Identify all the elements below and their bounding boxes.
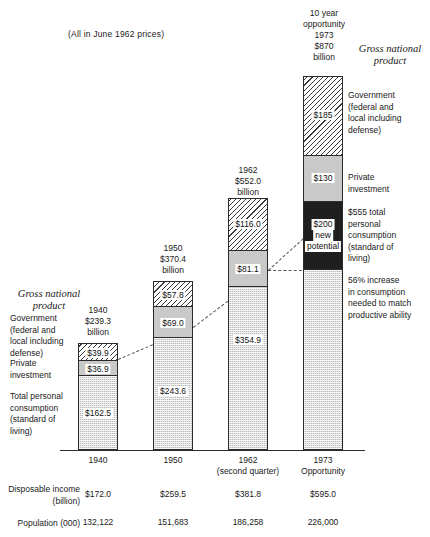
legend-right-investment-l1: Private [348, 172, 430, 184]
population-1940: 132,122 [68, 517, 128, 527]
legend-right-government-l1: Government [348, 90, 430, 102]
bar-1950-government-value: $57.8 [160, 290, 185, 300]
annotation-increase-l3: needed to match [348, 298, 430, 310]
header-1940-total: $239.3 [68, 316, 128, 327]
axis-label-1973-l2: Opportunity [293, 466, 353, 477]
bar-1973-investment-value: $130 [312, 173, 335, 183]
bar-1950-segment-consumption: $243.6 [153, 337, 193, 450]
axis-label-1973-l1: 1973 [293, 455, 353, 466]
bar-1940-government-value: $39.9 [85, 348, 110, 358]
disposable-income-1940: $172.0 [68, 489, 128, 499]
legend-right-consumption-l1: $555 total [348, 207, 430, 219]
gnp-title-right-line1: Gross national [350, 43, 430, 55]
population-1973: 226,000 [293, 517, 353, 527]
population-1962: 186,258 [218, 517, 278, 527]
header-1950-unit: billion [143, 265, 203, 276]
column-header-1973: 10 year opportunity 1973 $870 billion [293, 8, 355, 63]
legend-right-government: Government (federal and local including … [348, 90, 430, 136]
bar-1950[interactable]: $57.8 $69.0 $243.6 [153, 281, 193, 450]
bar-1940[interactable]: $39.9 $36.9 $162.5 [78, 343, 118, 450]
header-1962-year: 1962 [218, 165, 278, 176]
annotation-increase-l2: in consumption [348, 287, 430, 299]
bar-1973-segment-new-potential: $200 new potential [303, 201, 343, 270]
legend-right-government-l4: defense) [348, 125, 430, 137]
annotation-increase-l4: productive ability [348, 310, 430, 322]
gnp-title-left-line1: Gross national [6, 288, 92, 300]
header-1973-total: $870 [293, 41, 355, 52]
bar-1940-consumption-value: $162.5 [83, 408, 113, 418]
disposable-income-1973: $595.0 [293, 489, 353, 499]
chart-canvas: (All in June 1962 prices) Gross national… [0, 0, 430, 537]
header-1973-year: 1973 [293, 30, 355, 41]
bar-1962-segment-government: $116.0 [228, 198, 268, 251]
bar-1940-segment-government: $39.9 [78, 343, 118, 361]
column-header-1940: 1940 $239.3 billion [68, 305, 128, 338]
bar-1950-segment-investment: $69.0 [153, 306, 193, 338]
header-1940-unit: billion [68, 327, 128, 338]
axis-label-1940-l1: 1940 [68, 455, 128, 466]
annotation-consumption-increase: 56% increase in consumption needed to ma… [348, 275, 430, 321]
bar-1950-investment-value: $69.0 [160, 318, 185, 328]
bar-1940-segment-investment: $36.9 [78, 360, 118, 376]
axis-label-1950-l1: 1950 [143, 455, 203, 466]
legend-right-consumption-l4: (standard of [348, 242, 430, 254]
legend-right-consumption-l2: personal [348, 219, 430, 231]
legend-right-government-l3: local including [348, 113, 430, 125]
header-1973-unit: billion [293, 52, 355, 63]
annotation-increase-l1: 56% increase [348, 275, 430, 287]
bar-1973-new-potential-value-l3: potential [305, 241, 341, 252]
gnp-title-right: Gross national product [350, 43, 430, 67]
bar-1962-government-value: $116.0 [233, 219, 262, 229]
legend-right-investment: Private investment [348, 172, 430, 195]
header-1962-unit: billion [218, 187, 278, 198]
bar-1962[interactable]: $116.0 $81.1 $354.9 [228, 198, 268, 450]
header-1950-total: $370.4 [143, 254, 203, 265]
disposable-income-1950: $259.5 [143, 489, 203, 499]
bar-1940-segment-consumption: $162.5 [78, 375, 118, 450]
legend-right-government-l2: (federal and [348, 102, 430, 114]
column-header-1962: 1962 $552.0 billion [218, 165, 278, 198]
header-1940-year: 1940 [68, 305, 128, 316]
bar-1940-investment-value: $36.9 [85, 364, 110, 374]
disposable-income-1962: $381.8 [218, 489, 278, 499]
x-axis-line [60, 450, 365, 451]
axis-label-1950: 1950 [143, 455, 203, 466]
bar-1973-segment-consumption [303, 269, 343, 450]
axis-label-1962-l1: 1962 [208, 455, 288, 466]
axis-label-1940: 1940 [68, 455, 128, 466]
legend-right-consumption-l3: consumption [348, 230, 430, 242]
header-1973-opportunity-l1: 10 year [293, 8, 355, 19]
header-1950-year: 1950 [143, 243, 203, 254]
gnp-title-right-line2: product [350, 55, 430, 67]
bar-1962-investment-value: $81.1 [235, 264, 260, 274]
bar-1973-new-potential-value-l1: $200 [312, 219, 335, 230]
legend-right-investment-l2: investment [348, 184, 430, 196]
header-1973-opportunity-l2: opportunity [293, 19, 355, 30]
legend-right-consumption-l5: living) [348, 253, 430, 265]
axis-label-1962: 1962 (second quarter) [208, 455, 288, 477]
price-basis-note: (All in June 1962 prices) [68, 29, 164, 39]
legend-right-consumption: $555 total personal consumption (standar… [348, 207, 430, 265]
bar-1973-segment-government: $185 [303, 76, 343, 156]
bar-1973-government-value: $185 [312, 110, 335, 120]
bar-1973-new-potential-value-l2: new [313, 230, 333, 241]
bar-1962-segment-investment: $81.1 [228, 250, 268, 287]
bar-1950-segment-government: $57.8 [153, 281, 193, 307]
column-header-1950: 1950 $370.4 billion [143, 243, 203, 276]
header-1962-total: $552.0 [218, 176, 278, 187]
axis-label-1962-l2: (second quarter) [208, 466, 288, 477]
bar-1962-consumption-value: $354.9 [233, 335, 263, 345]
axis-label-1973: 1973 Opportunity [293, 455, 353, 477]
bar-1973[interactable]: $185 $130 $200 new potential [303, 76, 343, 450]
population-1950: 151,683 [143, 517, 203, 527]
bar-1973-segment-investment: $130 [303, 155, 343, 202]
bar-1950-consumption-value: $243.6 [158, 386, 188, 396]
bar-1962-segment-consumption: $354.9 [228, 286, 268, 450]
